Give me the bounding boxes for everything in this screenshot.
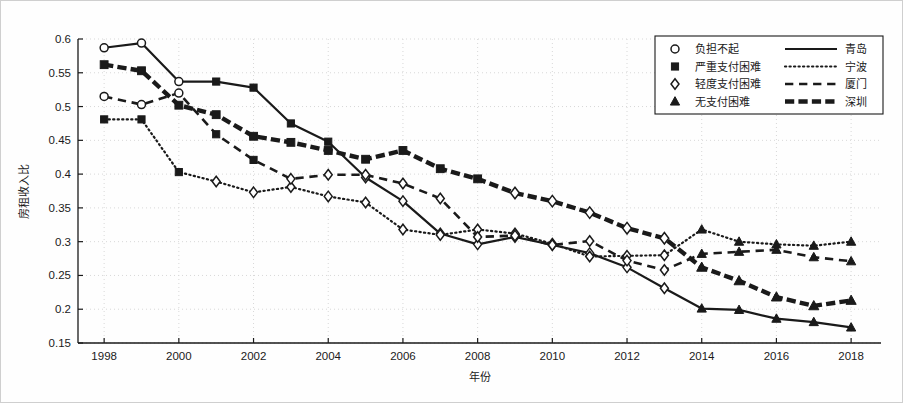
data-point-square-marker xyxy=(175,101,183,109)
legend-city-label-青岛: 青岛 xyxy=(845,42,867,55)
legend-marker-label-square: 严重支付困难 xyxy=(695,60,761,73)
data-point-circle-marker xyxy=(175,89,183,97)
data-point-square-marker xyxy=(436,165,444,173)
data-point-square-marker xyxy=(213,78,220,85)
y-axis-tick-label: 0.25 xyxy=(49,269,71,281)
legend-marker-label-triangle: 无支付困难 xyxy=(695,96,750,108)
legend-city-label-宁波: 宁波 xyxy=(845,60,867,73)
data-point-circle-marker xyxy=(100,92,108,100)
data-point-square-marker xyxy=(399,147,407,155)
y-axis-tick-label: 0.35 xyxy=(49,202,71,214)
x-axis-tick-label: 2002 xyxy=(241,350,267,362)
data-point-square-marker xyxy=(250,156,257,163)
legend-marker-label-diamond: 轻度支付困难 xyxy=(695,77,761,90)
y-axis-tick-label: 0.2 xyxy=(55,303,71,315)
y-axis-title: 房租收入比 xyxy=(17,164,30,219)
data-point-square-marker xyxy=(100,61,108,69)
rent-income-ratio-line-chart: 0.150.20.250.30.350.40.450.50.550.619982… xyxy=(0,0,903,403)
x-axis-tick-label: 2010 xyxy=(540,350,566,362)
legend-marker-label-circle: 负担不起 xyxy=(695,42,739,55)
x-axis-tick-label: 2000 xyxy=(166,350,192,362)
data-point-square-marker xyxy=(175,169,182,176)
x-axis-tick-label: 2018 xyxy=(838,350,864,362)
legend-city-label-深圳: 深圳 xyxy=(845,96,867,108)
x-axis-tick-label: 2006 xyxy=(390,350,416,362)
data-point-square-marker xyxy=(138,116,145,123)
y-axis-tick-label: 0.45 xyxy=(49,134,71,146)
data-point-square-marker xyxy=(362,155,370,163)
data-point-square-marker xyxy=(250,84,257,91)
data-point-square-marker xyxy=(474,175,482,183)
x-axis-tick-label: 2012 xyxy=(614,350,640,362)
y-axis-tick-label: 0.3 xyxy=(55,236,71,248)
data-point-circle-marker xyxy=(138,101,146,109)
data-point-square-marker xyxy=(324,147,332,155)
x-axis-tick-label: 1998 xyxy=(91,350,117,362)
legend: 负担不起青岛严重支付困难宁波轻度支付困难厦门无支付困难深圳 xyxy=(655,36,883,114)
data-point-square-marker xyxy=(250,132,258,140)
data-point-square-marker xyxy=(671,63,678,70)
data-point-square-marker xyxy=(287,120,294,127)
data-point-circle-marker xyxy=(671,45,679,53)
x-axis-tick-label: 2008 xyxy=(465,350,491,362)
x-axis-tick-label: 2004 xyxy=(315,350,341,362)
y-axis-tick-label: 0.4 xyxy=(55,168,72,180)
y-axis-tick-label: 0.6 xyxy=(55,33,71,45)
data-point-square-marker xyxy=(213,131,220,138)
data-point-circle-marker xyxy=(138,39,146,47)
y-axis-tick-label: 0.15 xyxy=(49,337,71,349)
y-axis-tick-label: 0.5 xyxy=(55,101,71,113)
data-point-square-marker xyxy=(138,67,146,75)
data-point-square-marker xyxy=(212,111,220,119)
data-point-square-marker xyxy=(325,138,332,145)
data-point-square-marker xyxy=(101,116,108,123)
y-axis-tick-label: 0.55 xyxy=(49,67,71,79)
data-point-circle-marker xyxy=(175,78,183,86)
x-axis-tick-label: 2014 xyxy=(689,350,715,362)
x-axis-title: 年份 xyxy=(469,370,491,383)
data-point-circle-marker xyxy=(100,44,108,52)
chart-container: 0.150.20.250.30.350.40.450.50.550.619982… xyxy=(0,0,903,403)
x-axis-tick-label: 2016 xyxy=(764,350,790,362)
data-point-square-marker xyxy=(287,138,295,146)
legend-city-label-厦门: 厦门 xyxy=(845,77,867,90)
